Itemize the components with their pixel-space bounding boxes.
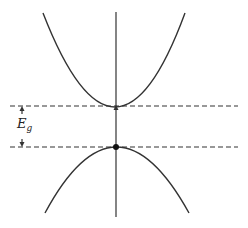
valence-band-curve [45, 147, 189, 213]
conduction-band-curve [43, 13, 185, 107]
band-structure-diagram [0, 0, 248, 228]
valence-maximum-dot [113, 144, 119, 150]
gap-arrow-down-icon [20, 139, 25, 147]
band-gap-subscript: g [27, 123, 33, 133]
band-gap-symbol: E [17, 116, 27, 131]
band-gap-label: Eg [17, 117, 32, 133]
gap-arrow-up-icon [20, 106, 25, 114]
